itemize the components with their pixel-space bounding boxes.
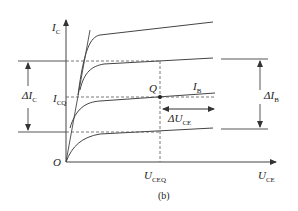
uceq-label: UCEQ (144, 170, 166, 184)
delta-uce-label: ΔUCE (168, 113, 191, 127)
curve-q (70, 93, 215, 128)
figure-caption: (b) (158, 191, 170, 201)
icq-label: ICQ (53, 93, 66, 107)
x-axis-label: UCE (258, 170, 275, 184)
q-label: Q (149, 83, 157, 94)
curve-bottom (66, 128, 213, 162)
transistor-output-characteristics-diagram: IC O UCE ΔIC ICQ Q IB ΔUCE UCEQ ΔIB (b) (0, 0, 298, 211)
q-point (158, 95, 162, 99)
y-axis-label: IC (52, 22, 60, 36)
ib-label: IB (193, 81, 201, 95)
delta-ic-label: ΔIC (22, 90, 37, 104)
saturation-line (66, 30, 90, 162)
origin-label: O (53, 157, 61, 168)
delta-ib-label: ΔIB (264, 90, 279, 104)
